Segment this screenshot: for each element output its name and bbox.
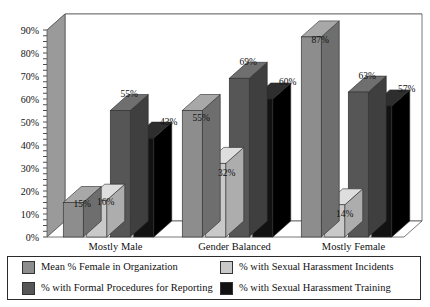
legend-swatch-mean-female-icon (22, 261, 35, 274)
chart-legend: Mean % Female in Organization % with Sex… (7, 256, 421, 300)
y-tick-label: 20% (21, 186, 39, 197)
category-axis-labels: Mostly MaleGender BalancedMostly Female (89, 241, 386, 252)
legend-label-2: % with Formal Procedures for Reporting (41, 283, 213, 294)
legend-item-0: Mean % Female in Organization (8, 261, 214, 274)
bar-value-label: 63% (359, 71, 377, 81)
y-tick-label: 50% (21, 117, 39, 128)
bar-value-label: 87% (312, 35, 330, 45)
y-tick-label: 30% (21, 163, 39, 174)
bar-value-label: 32% (218, 168, 236, 178)
bar-value-label: 14% (336, 209, 354, 219)
y-tick-label: 70% (21, 71, 39, 82)
legend-swatch-procedures-icon (22, 282, 35, 295)
bar-value-label: 43% (160, 117, 178, 127)
legend-item-1: % with Sexual Harassment Incidents (214, 261, 420, 274)
y-tick-label: 40% (21, 140, 39, 151)
bar (301, 21, 339, 237)
category-label: Mostly Female (322, 241, 386, 252)
y-tick-label: 0% (26, 232, 39, 243)
y-tick-label: 80% (21, 48, 39, 59)
legend-item-3: % with Sexual Harassment Training (214, 282, 420, 295)
bar-value-label: 60% (279, 77, 297, 87)
chart-figure: 0%10%20%30%40%50%60%70%80%90% 15%16%55%4… (0, 0, 430, 307)
y-tick-label: 90% (21, 25, 39, 36)
category-label: Gender Balanced (198, 241, 271, 252)
legend-item-2: % with Formal Procedures for Reporting (8, 282, 214, 295)
bar-value-label: 57% (398, 84, 416, 94)
bar-value-label: 55% (121, 89, 139, 99)
y-axis-tick-labels: 0%10%20%30%40%50%60%70%80%90% (21, 25, 39, 243)
bar-value-label: 69% (240, 57, 258, 67)
bar-value-label: 16% (97, 197, 115, 207)
legend-swatch-training-icon (220, 282, 233, 295)
legend-label-3: % with Sexual Harassment Training (239, 283, 391, 294)
legend-label-1: % with Sexual Harassment Incidents (239, 262, 394, 273)
bar-value-label: 15% (74, 199, 92, 209)
legend-swatch-incidents-icon (220, 261, 233, 274)
y-tick-label: 10% (21, 209, 39, 220)
legend-label-0: Mean % Female in Organization (41, 262, 178, 273)
bar-value-label: 55% (193, 113, 211, 123)
category-label: Mostly Male (89, 241, 143, 252)
y-tick-label: 60% (21, 94, 39, 105)
